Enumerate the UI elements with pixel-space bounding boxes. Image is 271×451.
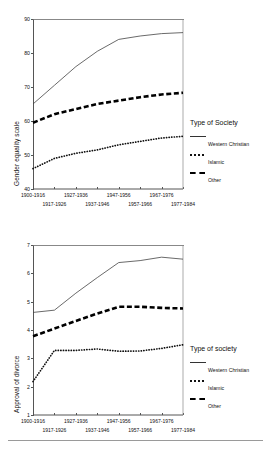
legend-item-other[interactable]: Other bbox=[190, 393, 237, 407]
footer-divider bbox=[8, 440, 263, 441]
legend-swatch-solid-icon bbox=[190, 362, 206, 363]
legend-title-2: Type of society bbox=[190, 345, 237, 352]
figure-page: Gender equality scale 405060708090 1900-… bbox=[0, 0, 271, 451]
chart-gender-equality: Gender equality scale 405060708090 1900-… bbox=[0, 0, 271, 226]
legend-item-other[interactable]: Other bbox=[190, 167, 238, 181]
series-line-islamic bbox=[33, 345, 183, 382]
legend-label-other: Other bbox=[208, 177, 221, 183]
legend-1: Type of Society Western Christian Islami… bbox=[190, 119, 238, 181]
legend-item-islamic[interactable]: Islamic bbox=[190, 375, 237, 389]
chart-approval-divorce: Approval of divorce 1234567 1900-1916191… bbox=[0, 226, 271, 451]
legend-label-western-christian: Western Christian bbox=[208, 141, 249, 147]
series-line-other bbox=[33, 307, 183, 336]
series-line-islamic bbox=[33, 136, 183, 168]
plot-lines-1 bbox=[0, 0, 271, 226]
legend-label-islamic: Islamic bbox=[208, 159, 224, 165]
plot-lines-2 bbox=[0, 226, 271, 451]
legend-swatch-dashed-icon bbox=[190, 398, 205, 400]
legend-swatch-dotted-icon bbox=[190, 154, 204, 156]
series-line-western-christian bbox=[33, 33, 183, 104]
series-line-western-christian bbox=[33, 257, 183, 312]
legend-title-1: Type of Society bbox=[190, 119, 238, 126]
legend-2: Type of society Western Christian Islami… bbox=[190, 345, 237, 407]
legend-item-western-christian[interactable]: Western Christian bbox=[190, 131, 238, 145]
legend-label-western-christian: Western Christian bbox=[208, 367, 249, 373]
legend-item-western-christian[interactable]: Western Christian bbox=[190, 357, 237, 371]
legend-item-islamic[interactable]: Islamic bbox=[190, 149, 238, 163]
legend-swatch-dashed-icon bbox=[190, 172, 205, 174]
legend-label-islamic: Islamic bbox=[208, 385, 224, 391]
series-line-other bbox=[33, 93, 183, 123]
legend-swatch-dotted-icon bbox=[190, 380, 204, 382]
legend-label-other: Other bbox=[208, 403, 221, 409]
legend-swatch-solid-icon bbox=[190, 136, 206, 137]
